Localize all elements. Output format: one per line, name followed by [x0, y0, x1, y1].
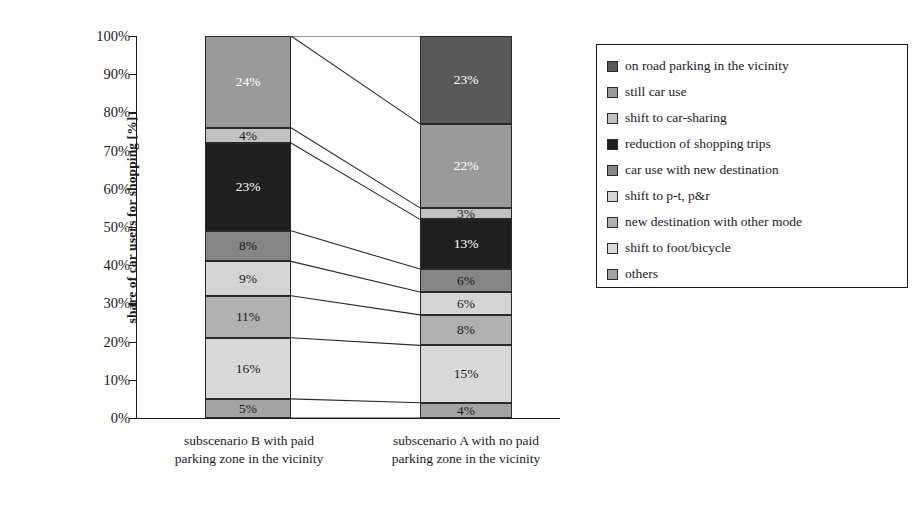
legend-item-label: new destination with other mode [625, 215, 802, 229]
legend-item[interactable]: new destination with other mode [607, 209, 907, 235]
x-axis-line [130, 418, 560, 419]
y-tick-mark [129, 74, 136, 75]
bar-segment-value-label: 15% [454, 367, 479, 381]
y-tick-mark [129, 380, 136, 381]
bar-segment[interactable]: 13% [420, 219, 512, 269]
bar-segment[interactable]: 6% [420, 292, 512, 315]
y-tick-mark [129, 418, 136, 419]
bar-segment[interactable]: 9% [205, 261, 291, 295]
connector-line [291, 296, 420, 315]
bar-segment[interactable]: 23% [205, 143, 291, 231]
bar-segment-value-label: 8% [239, 239, 257, 253]
bar-segment-value-label: 8% [457, 323, 475, 337]
chart-legend: on road parking in the vicinitystill car… [596, 44, 908, 288]
bar-segment-value-label: 16% [236, 362, 261, 376]
y-tick-label: 30% [78, 296, 130, 311]
legend-item[interactable]: on road parking in the vicinity [607, 53, 907, 79]
y-tick-mark [129, 265, 136, 266]
legend-item-label: still car use [625, 85, 686, 99]
bar-segment[interactable]: 6% [420, 269, 512, 292]
connector-line [291, 399, 420, 403]
x-axis-category-label-a: subscenario A with no paidparking zone i… [352, 432, 580, 468]
y-tick-mark [129, 189, 136, 190]
y-tick-mark [129, 227, 136, 228]
connector-line [291, 261, 420, 292]
legend-swatch-icon [607, 139, 618, 150]
bar-segment[interactable]: 5% [205, 399, 291, 418]
connector-line [291, 231, 420, 269]
legend-item-label: shift to car-sharing [625, 111, 727, 125]
y-tick-label: 50% [78, 220, 130, 235]
bar-segment[interactable]: 22% [420, 124, 512, 208]
bar-segment[interactable]: 4% [420, 403, 512, 418]
legend-item[interactable]: reduction of shopping trips [607, 131, 907, 157]
legend-item[interactable]: shift to car-sharing [607, 105, 907, 131]
y-tick-label: 0% [78, 411, 130, 426]
bar-segment[interactable]: 23% [420, 36, 512, 124]
bar-segment-value-label: 4% [457, 404, 475, 418]
x-axis-category-line: subscenario B with paid [138, 432, 360, 450]
legend-swatch-icon [607, 217, 618, 228]
y-tick-label: 20% [78, 335, 130, 350]
y-tick-label: 40% [78, 258, 130, 273]
y-tick-label: 70% [78, 144, 130, 159]
bar-segment-value-label: 23% [454, 73, 479, 87]
connector-line [291, 338, 420, 346]
x-axis-category-line: subscenario A with no paid [352, 432, 580, 450]
bar-segment-value-label: 22% [454, 159, 479, 173]
bar-segment-value-label: 6% [457, 274, 475, 288]
bar-segment[interactable]: 15% [420, 345, 512, 402]
legend-item-label: reduction of shopping trips [625, 137, 771, 151]
bar-segment[interactable]: 11% [205, 296, 291, 338]
legend-item[interactable]: shift to foot/bicycle [607, 235, 907, 261]
y-axis-line [136, 36, 137, 418]
legend-item-label: shift to foot/bicycle [625, 241, 731, 255]
y-tick-mark [129, 112, 136, 113]
y-tick-mark [129, 151, 136, 152]
bar-segment-value-label: 13% [454, 237, 479, 251]
y-axis-tick-labels: 0%10%20%30%40%50%60%70%80%90%100% [78, 0, 130, 508]
legend-item-label: on road parking in the vicinity [625, 59, 789, 73]
bar-segment-value-label: 3% [457, 208, 475, 219]
legend-swatch-icon [607, 61, 618, 72]
legend-item[interactable]: still car use [607, 79, 907, 105]
legend-item[interactable]: others [607, 261, 907, 287]
x-axis-category-line: parking zone in the vicinity [138, 450, 360, 468]
bar-segment[interactable]: 4% [205, 128, 291, 143]
x-axis-category-line: parking zone in the vicinity [352, 450, 580, 468]
legend-swatch-icon [607, 165, 618, 176]
y-tick-label: 90% [78, 67, 130, 82]
legend-item-label: car use with new destination [625, 163, 779, 177]
y-tick-label: 60% [78, 182, 130, 197]
legend-swatch-icon [607, 243, 618, 254]
y-tick-label: 80% [78, 105, 130, 120]
bar-segment[interactable]: 24% [205, 36, 291, 128]
y-tick-label: 10% [78, 373, 130, 388]
bar-segment-value-label: 23% [236, 180, 261, 194]
connector-line [291, 143, 420, 219]
legend-item[interactable]: shift to p-t, p&r [607, 183, 907, 209]
legend-swatch-icon [607, 191, 618, 202]
connector-line [291, 128, 420, 208]
stacked-bar-subscenario-a[interactable]: 23%22%3%13%6%6%8%15%4% [420, 36, 512, 418]
bar-segment[interactable]: 8% [420, 315, 512, 346]
x-axis-category-label-b: subscenario B with paidparking zone in t… [138, 432, 360, 468]
y-tick-label: 100% [78, 29, 130, 44]
bar-segment[interactable]: 3% [420, 208, 512, 219]
bar-segment-value-label: 5% [239, 402, 257, 416]
bar-segment[interactable]: 16% [205, 338, 291, 399]
connector-line [291, 36, 420, 124]
legend-swatch-icon [607, 113, 618, 124]
legend-item-label: others [625, 267, 658, 281]
legend-swatch-icon [607, 87, 618, 98]
bar-segment-value-label: 24% [236, 75, 261, 89]
plot-area: 24%4%23%8%9%11%16%5% 23%22%3%13%6%6%8%15… [136, 36, 560, 418]
bar-segment[interactable]: 8% [205, 231, 291, 262]
stacked-bar-subscenario-b[interactable]: 24%4%23%8%9%11%16%5% [205, 36, 291, 418]
legend-item-label: shift to p-t, p&r [625, 189, 710, 203]
bar-segment-value-label: 4% [239, 129, 257, 143]
chart-canvas: share of car users for shopping [%] 0%10… [0, 0, 922, 508]
bar-segment-value-label: 11% [236, 310, 260, 324]
legend-swatch-icon [607, 269, 618, 280]
legend-item[interactable]: car use with new destination [607, 157, 907, 183]
